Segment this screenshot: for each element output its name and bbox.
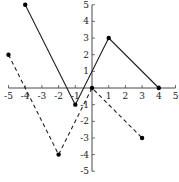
x-tick-label: -4: [21, 91, 30, 101]
data-point-marker: [56, 152, 60, 156]
x-tick-label: 5: [173, 91, 179, 101]
y-tick-label: -2: [80, 116, 89, 126]
data-point-marker: [90, 86, 94, 90]
x-tick-label: 4: [156, 91, 162, 101]
x-tick-label: -5: [4, 91, 13, 101]
x-tick-label: -2: [54, 91, 63, 101]
y-tick-label: 3: [83, 33, 89, 43]
x-tick-label: 1: [106, 91, 112, 101]
x-tick-label: 2: [123, 91, 129, 101]
data-point-marker: [140, 136, 144, 140]
y-tick-label: -3: [80, 133, 89, 143]
y-tick-label: 4: [83, 16, 89, 26]
y-tick-label: 1: [83, 66, 89, 76]
y-tick-label: -5: [80, 166, 89, 176]
data-point-marker: [6, 53, 10, 57]
data-point-marker: [107, 36, 111, 40]
y-tick-label: 5: [83, 0, 89, 10]
data-point-marker: [73, 102, 77, 106]
x-tick-label: -3: [38, 91, 47, 101]
data-point-marker: [157, 86, 161, 90]
line-chart: -5-4-3-2-112345-5-4-3-2-112345: [0, 0, 179, 182]
y-tick-label: 2: [83, 50, 89, 60]
y-tick-label: -4: [80, 150, 89, 160]
data-point-marker: [23, 3, 27, 7]
x-tick-label: 3: [139, 91, 145, 101]
